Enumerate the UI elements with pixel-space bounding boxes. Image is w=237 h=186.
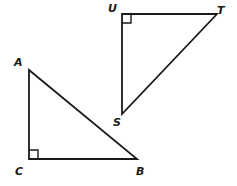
vertex-label-c: C <box>15 166 23 177</box>
vertex-label-a: A <box>14 57 23 68</box>
vertex-label-t: T <box>217 5 225 16</box>
triangle-abc-outline <box>29 70 137 159</box>
geometry-figure-canvas: A C B U T S <box>0 0 237 186</box>
vertex-label-b: B <box>136 166 144 177</box>
right-angle-marker-c <box>29 150 38 159</box>
vertex-label-u: U <box>108 3 117 14</box>
right-angle-marker-u <box>122 14 131 23</box>
geometry-diagram-svg <box>0 0 237 186</box>
vertex-label-s: S <box>113 117 121 128</box>
triangle-stu-outline <box>122 14 217 114</box>
triangle-stu-group <box>122 14 217 114</box>
triangle-abc-group <box>29 70 137 159</box>
